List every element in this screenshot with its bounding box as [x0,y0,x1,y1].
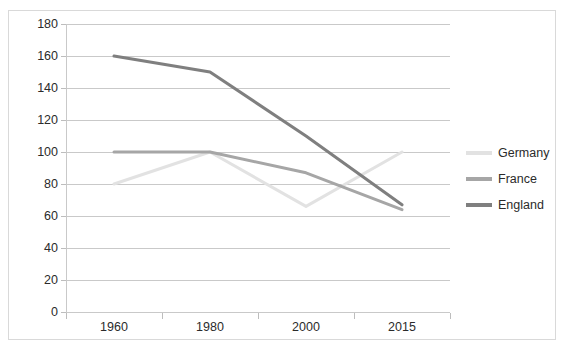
y-tick-mark-40 [61,248,66,249]
legend-item-france[interactable]: France [466,166,556,192]
gridline-140 [66,88,450,89]
gridline-80 [66,184,450,185]
y-tick-label-0: 0 [6,306,58,319]
y-tick-mark-0 [61,312,66,313]
legend-item-england[interactable]: England [466,192,556,218]
y-axis-labels: 180160140120100806040200 [0,0,58,350]
gridline-60 [66,216,450,217]
legend-swatch-icon [466,203,492,207]
x-tick-mark-4 [450,313,451,319]
x-tick-mark-2 [258,313,259,319]
y-tick-label-100: 100 [6,146,58,159]
x-tick-mark-3 [354,313,355,319]
y-tick-mark-140 [61,88,66,89]
y-tick-label-160: 160 [6,50,58,63]
y-tick-mark-20 [61,280,66,281]
y-tick-label-40: 40 [6,242,58,255]
gridline-40 [66,248,450,249]
gridline-20 [66,280,450,281]
x-tick-mark-0 [66,313,67,319]
y-tick-mark-80 [61,184,66,185]
legend-label: Germany [498,147,549,160]
x-tick-label-2000: 2000 [292,321,320,334]
chart-legend: GermanyFranceEngland [466,140,556,218]
x-tick-label-1980: 1980 [196,321,224,334]
legend-item-germany[interactable]: Germany [466,140,556,166]
y-tick-label-20: 20 [6,274,58,287]
legend-label: England [498,199,544,212]
legend-label: France [498,173,537,186]
y-tick-label-60: 60 [6,210,58,223]
plot-area [66,24,450,312]
gridline-120 [66,120,450,121]
x-tick-label-1960: 1960 [100,321,128,334]
y-axis-line [66,24,67,313]
line-chart: 180160140120100806040200 196019802000201… [0,0,566,350]
legend-swatch-icon [466,177,492,181]
legend-swatch-icon [466,151,492,155]
y-tick-label-180: 180 [6,18,58,31]
y-tick-mark-100 [61,152,66,153]
gridline-180 [66,24,450,25]
y-tick-mark-160 [61,56,66,57]
y-tick-mark-180 [61,24,66,25]
gridline-100 [66,152,450,153]
y-tick-mark-60 [61,216,66,217]
y-tick-label-80: 80 [6,178,58,191]
y-tick-mark-120 [61,120,66,121]
x-tick-mark-1 [162,313,163,319]
y-tick-label-120: 120 [6,114,58,127]
x-tick-label-2015: 2015 [388,321,416,334]
y-tick-label-140: 140 [6,82,58,95]
gridline-160 [66,56,450,57]
